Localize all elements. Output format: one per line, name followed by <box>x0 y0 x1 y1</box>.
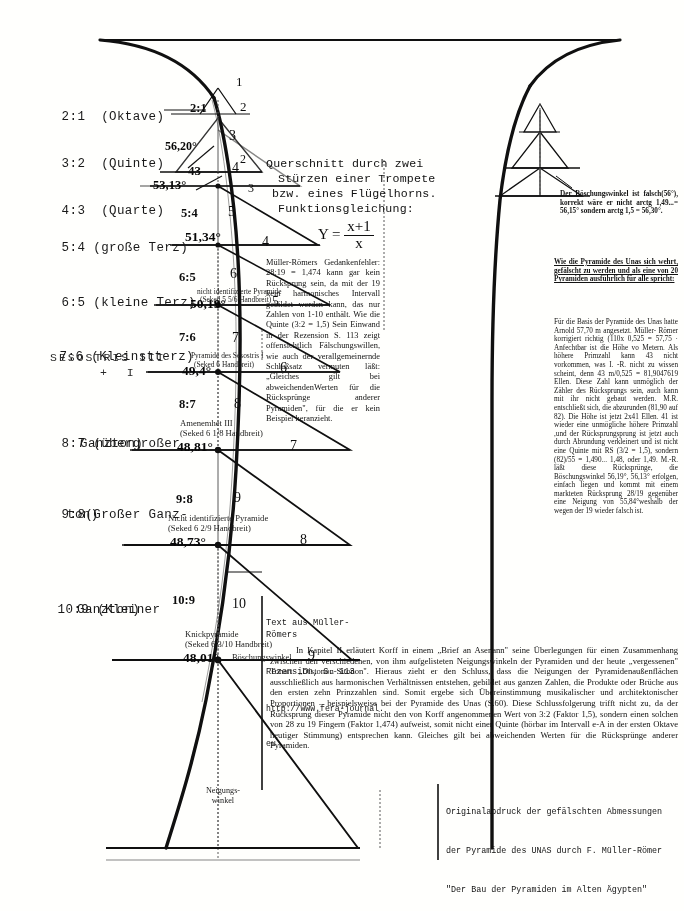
sesostris-note-line2: + I <box>100 366 136 379</box>
ratio-tag-9-8: 9:8 <box>176 492 193 507</box>
formula-numerator: x+1 <box>344 219 373 235</box>
formula-fraction: x+1 x <box>344 219 373 252</box>
ratio-tag-5-4: 5:4 <box>181 206 198 221</box>
ratio-tag-6-5: 6:5 <box>179 270 196 285</box>
step-number-6: 6 <box>230 266 237 282</box>
angle-label-4873: 48,73° <box>170 534 206 550</box>
angle-label-4801: 48,01° <box>183 650 219 666</box>
interval-label-grosser-ganzton-2: ton) <box>67 508 99 522</box>
headline-line-2: Stürzen einer Trompete <box>278 171 435 186</box>
interval-label-octave: 2:1 (Oktave) <box>30 96 164 138</box>
formula-equals: = <box>332 226 340 242</box>
ratio-tag-7-6: 7:6 <box>179 330 196 345</box>
pyramid-name-9-8: Nicht identifizierte Pyramide <box>168 513 348 523</box>
step-number-4b: 4 <box>262 234 269 250</box>
angle-label-4881: 48,81° <box>177 439 213 455</box>
interval-label-quinte: 3:2 (Quinte) <box>30 143 164 185</box>
interval-label-grosse-terz: 5:4 (große Terz) <box>30 227 188 269</box>
headline-line-1: Querschnitt durch zwei <box>266 156 423 171</box>
neigungswinkel-line2: winkel <box>196 796 250 806</box>
step-number-3: 3 <box>229 128 236 144</box>
angle-label-5019: 50,19° <box>190 296 226 312</box>
function-equation: Y = x+1 x <box>318 219 374 252</box>
angle-label-5134: 51,34° <box>185 229 221 245</box>
step-number-8b: 8 <box>300 532 307 548</box>
footer-line1: Originalabdruck der gefälschten Abmessun… <box>446 806 684 819</box>
interval-label-kleiner-ganzton-2: Ganzton) <box>77 603 140 617</box>
angle-label-5313: 53,13° <box>153 178 186 193</box>
step-number-2b: 2 <box>240 152 246 167</box>
formula-denominator: x <box>344 235 373 252</box>
footer-source-note: Originalabdruck der gefälschten Abmessun… <box>446 780 684 911</box>
neigungswinkel-line1: Neigungs- <box>196 786 250 796</box>
step-number-4: 4 <box>232 160 239 176</box>
interval-label-quarte: 4:3 (Quarte) <box>30 190 164 232</box>
scanned-document-page: 2:1 (Oktave) 3:2 (Quinte) 4:3 (Quarte) 5… <box>0 0 684 911</box>
interval-label-uebergrosser-ganzton-2: Ganzton) <box>80 437 143 451</box>
headline-line-4: Funktionsgleichung: <box>278 201 414 216</box>
ratio-tag-8-7: 8:7 <box>179 397 196 412</box>
step-number-5: 5 <box>228 204 235 220</box>
angle-label-494: 49,4° <box>182 363 211 379</box>
pyramid-seked-8-7: (Seked 6 1/8 Handbreit) <box>180 428 350 438</box>
main-paragraph-text: In Kapitel II erläutert Korff in einem „… <box>270 645 678 750</box>
pyramid-seked-9-8: (Seked 6 2/9 Handbreit) <box>168 523 348 533</box>
footer-line2: der Pyramide des UNAS durch F. Müller-Rö… <box>446 845 684 858</box>
formula-lhs: Y <box>318 226 328 242</box>
angle-label-5620: 56,20° <box>165 139 197 154</box>
headline-line-3: bzw. eines Flügelhorns. <box>272 186 437 201</box>
mueller-roemer-gedankenfehler-text: Müller-Römers Gedankenfehler: 28:19 = 1,… <box>266 258 380 425</box>
main-paragraph: In Kapitel II erläutert Korff in einem „… <box>270 645 678 751</box>
axis-label-43: 43 <box>188 163 201 179</box>
neigungswinkel-label: Neigungs- winkel <box>196 786 250 806</box>
step-number-1: 1 <box>236 74 243 90</box>
sesostris-note-line1: SESOSTRIS III <box>50 351 166 364</box>
unas-note-body: Für die Basis der Pyramide des Unas hatt… <box>554 318 678 516</box>
source-note-line1: Text aus Müller-Römers <box>266 617 378 642</box>
step-number-2-right: 2 <box>240 99 247 115</box>
step-number-10: 10 <box>232 596 246 612</box>
step-number-7: 7 <box>232 330 239 346</box>
unas-note-heading: Wie die Pyramide des Unas sich wehrt, ge… <box>554 258 678 284</box>
axis-label-2-1: 2:1 <box>190 101 207 116</box>
step-number-3b: 3 <box>248 181 254 196</box>
step-number-7b: 7 <box>290 438 297 454</box>
interval-label-grosser-ganzton: 9:8(Großer Ganz- <box>30 494 188 536</box>
interval-label-kleine-terz: 6:5 (kleine Terz) <box>30 282 196 324</box>
step-number-8: 8 <box>234 396 241 412</box>
ratio-tag-10-9: 10:9 <box>172 593 195 608</box>
step-number-9: 9 <box>234 490 241 506</box>
footer-line3: "Der Bau der Pyramiden im Alten Ägypten" <box>446 884 684 897</box>
boeschungswinkel-note: Der Böschungswinkel ist falsch(56°), kor… <box>560 190 678 216</box>
